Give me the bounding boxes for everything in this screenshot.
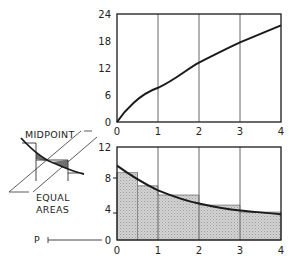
bottom-xtick-3: 3	[237, 245, 243, 256]
diagram-canvas: 0 6 12 18 24 0 1 2 3 4 0 4 8 12 0 1 2 3	[0, 0, 289, 263]
midpoint-label: MIDPOINT	[25, 129, 75, 140]
top-ytick-24: 24	[98, 9, 111, 20]
p-label: P	[34, 234, 40, 245]
bottom-ytick-4: 4	[105, 204, 111, 215]
p-pointer: P	[34, 234, 102, 245]
top-xtick-3: 3	[237, 126, 243, 137]
top-ytick-0: 0	[105, 117, 111, 128]
equal-label: EQUAL	[36, 192, 70, 203]
areas-label: AREAS	[36, 204, 69, 215]
bottom-chart: 0 4 8 12 0 1 2 3 4	[98, 142, 284, 256]
inset-diagonal-left	[9, 131, 81, 192]
bottom-ytick-12: 12	[98, 142, 111, 153]
bottom-xtick-4: 4	[278, 245, 284, 256]
bottom-xtick-0: 0	[114, 245, 120, 256]
top-ytick-12: 12	[98, 63, 111, 74]
bottom-xtick-1: 1	[155, 245, 161, 256]
bottom-ytick-8: 8	[105, 173, 111, 184]
top-xtick-4: 4	[278, 126, 284, 137]
midpoint-inset: MIDPOINT EQUAL AREAS	[9, 129, 97, 215]
top-ytick-6: 6	[105, 90, 111, 101]
bottom-xtick-2: 2	[196, 245, 202, 256]
top-xtick-2: 2	[196, 126, 202, 137]
top-chart: 0 6 12 18 24 0 1 2 3 4	[98, 9, 284, 137]
top-ytick-18: 18	[98, 36, 111, 47]
bottom-ytick-0: 0	[105, 235, 111, 246]
top-xtick-0: 0	[114, 126, 120, 137]
top-xtick-1: 1	[155, 126, 161, 137]
